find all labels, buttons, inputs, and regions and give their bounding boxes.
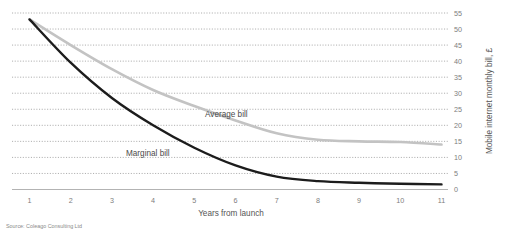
x-axis-tick-label: 2: [69, 196, 73, 205]
x-axis-tick-label: 9: [357, 196, 361, 205]
y-axis-tick-label: 25: [454, 105, 462, 114]
x-axis-tick-label: 4: [151, 196, 155, 205]
x-axis-tick-label: 6: [234, 196, 238, 205]
y-axis-tick-label: 5: [454, 169, 458, 178]
x-axis-tick-label: 8: [316, 196, 320, 205]
y-axis-tick-label: 40: [454, 57, 462, 66]
y-axis-tick-label: 0: [454, 185, 458, 194]
y-axis-tick-label: 15: [454, 137, 462, 146]
y-axis-tick-labels: 0510152025303540455055: [454, 9, 462, 195]
chart-container: 0510152025303540455055 1234567891011 Ave…: [0, 0, 507, 240]
y-axis-tick-label: 10: [454, 153, 462, 162]
x-axis-tick-label: 7: [275, 196, 279, 205]
x-axis-tick-label: 11: [438, 196, 445, 205]
y-axis-tick-label: 30: [454, 89, 462, 98]
line-chart: 0510152025303540455055 1234567891011 Ave…: [0, 0, 507, 240]
x-axis-tick-label: 5: [192, 196, 196, 205]
y-axis-tick-label: 50: [454, 25, 462, 34]
x-axis-tick-label: 10: [396, 196, 404, 205]
series-line-marginal-bill: [30, 19, 442, 184]
y-axis-tick-label: 35: [454, 73, 462, 82]
y-axis-tick-label: 45: [454, 41, 462, 50]
source-note: Source: Coleago Consulting Ltd: [6, 223, 82, 229]
x-axis-tick-label: 1: [28, 196, 32, 205]
x-axis-tick-label: 3: [110, 196, 114, 205]
x-axis-tick-labels: 1234567891011: [28, 196, 446, 205]
y-axis-tick-label: 55: [454, 9, 462, 18]
series-label-marginal-bill: Marginal bill: [126, 149, 170, 158]
y-axis-tick-label: 20: [454, 121, 462, 130]
y-axis-title: Mobile internet monthly bill, £: [485, 48, 494, 154]
x-axis-title: Years from launch: [198, 209, 264, 218]
series-label-average-bill: Average bill: [205, 110, 248, 119]
